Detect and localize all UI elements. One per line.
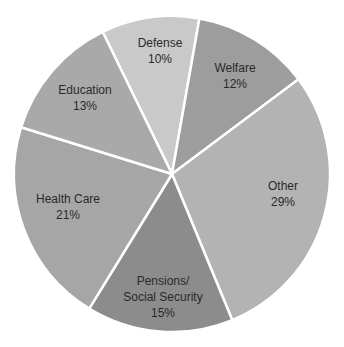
label-welfare-pct: 12%: [223, 77, 247, 91]
label-defense-name: Defense: [138, 36, 183, 50]
label-education-pct: 13%: [73, 99, 97, 113]
label-education-name: Education: [58, 83, 111, 97]
label-health-pct: 21%: [56, 208, 80, 222]
label-pensions-pct: 15%: [151, 306, 175, 320]
pie-chart: Defense 10% Welfare 12% Other 29% Pensio…: [0, 0, 344, 347]
label-welfare-name: Welfare: [214, 61, 255, 75]
label-other-name: Other: [268, 179, 298, 193]
label-health-name: Health Care: [36, 192, 100, 206]
label-other-pct: 29%: [271, 195, 295, 209]
label-pensions-name2: Social Security: [123, 290, 202, 304]
label-pensions-name1: Pensions/: [137, 274, 190, 288]
label-defense-pct: 10%: [148, 52, 172, 66]
